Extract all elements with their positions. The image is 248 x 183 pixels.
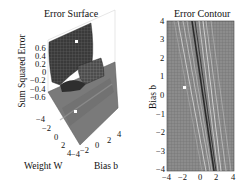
x-tick: −4 [162, 173, 171, 182]
y-tick: −2 [156, 128, 165, 137]
x-tick: −2 [178, 173, 187, 182]
contour-xlabel: Weight W [180, 182, 218, 183]
y-tick: 4 [160, 17, 164, 26]
contour-plot [0, 0, 248, 183]
y-tick: 1 [160, 72, 164, 81]
x-tick: 4 [231, 173, 235, 182]
y-tick: 3 [160, 35, 164, 44]
y-tick: 0 [160, 91, 164, 100]
contour-marker [183, 86, 186, 89]
x-tick: 2 [214, 173, 218, 182]
y-tick: 2 [160, 54, 164, 63]
contour-ylabel: Bias b [148, 72, 158, 122]
x-tick: 0 [198, 173, 202, 182]
y-tick: −3 [156, 147, 165, 156]
